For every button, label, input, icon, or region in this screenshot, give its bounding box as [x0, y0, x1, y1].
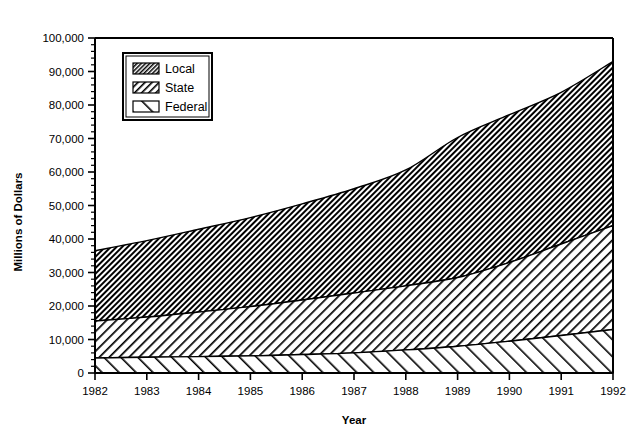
x-axis-tick-label: 1982 — [82, 385, 108, 397]
y-axis-tick-label: 40,000 — [49, 233, 84, 245]
x-axis-tick-label: 1992 — [600, 385, 626, 397]
y-axis-tick-label: 10,000 — [49, 334, 84, 346]
y-axis-tick-label: 0 — [78, 367, 84, 379]
x-axis-tick-label: 1987 — [341, 385, 367, 397]
legend-label-state: State — [165, 81, 194, 95]
legend-label-federal: Federal — [165, 100, 207, 114]
x-axis-tick-label: 1988 — [393, 385, 419, 397]
legend-swatch-local — [133, 63, 159, 74]
y-axis-title: Millions of Dollars — [12, 172, 24, 271]
y-axis-tick-label: 20,000 — [49, 300, 84, 312]
x-axis-tick-label: 1985 — [238, 385, 264, 397]
y-axis-tick-label: 60,000 — [49, 166, 84, 178]
legend: Local State Federal — [123, 53, 212, 120]
x-axis-tick-label: 1990 — [497, 385, 523, 397]
x-axis-tick-label: 1983 — [134, 385, 160, 397]
stacked-area-chart: 010,00020,00030,00040,00050,00060,00070,… — [0, 0, 628, 440]
y-axis-tick-label: 80,000 — [49, 99, 84, 111]
y-axis-tick-label: 70,000 — [49, 133, 84, 145]
legend-label-local: Local — [165, 62, 195, 76]
chart-canvas: 010,00020,00030,00040,00050,00060,00070,… — [0, 0, 628, 440]
x-axis-tick-label: 1991 — [548, 385, 574, 397]
legend-swatch-federal — [133, 101, 159, 112]
legend-swatch-state — [133, 82, 159, 93]
y-axis-tick-label: 50,000 — [49, 200, 84, 212]
x-axis-tick-label: 1984 — [186, 385, 212, 397]
y-axis-tick-label: 90,000 — [49, 66, 84, 78]
y-axis-tick-label: 100,000 — [42, 32, 84, 44]
x-axis-title: Year — [342, 414, 367, 426]
y-axis-tick-label: 30,000 — [49, 267, 84, 279]
x-axis-tick-label: 1989 — [445, 385, 471, 397]
x-axis-tick-label: 1986 — [289, 385, 315, 397]
